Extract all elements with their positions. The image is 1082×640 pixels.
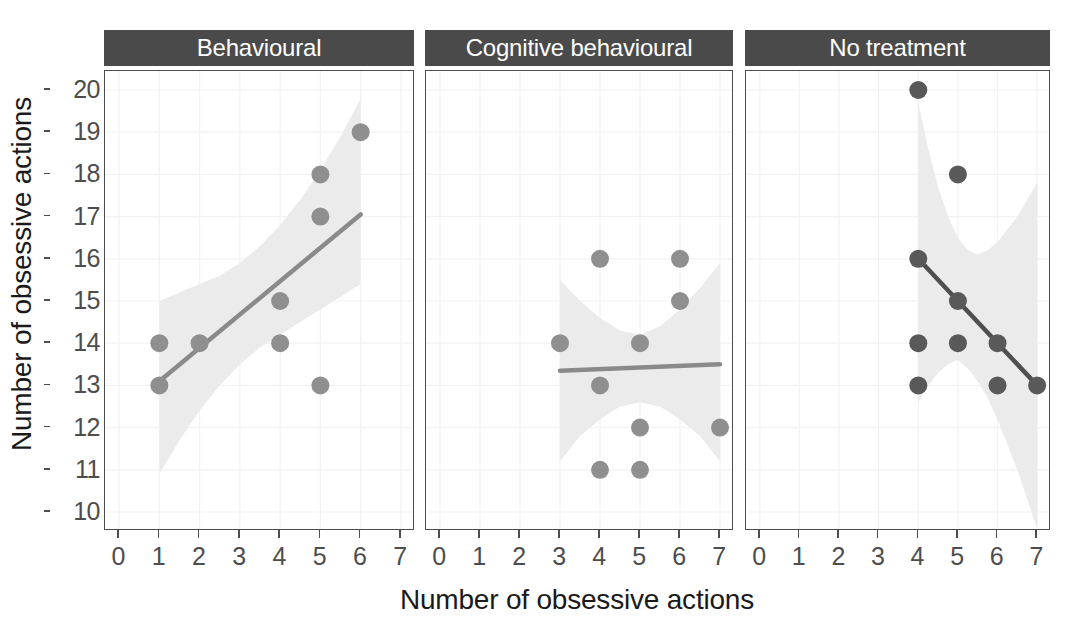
data-point	[949, 165, 967, 183]
plot-area	[745, 70, 1050, 530]
data-point	[1028, 376, 1046, 394]
x-axis-tick-mark	[798, 530, 800, 538]
data-point	[909, 81, 927, 99]
data-point	[150, 334, 168, 352]
data-point	[909, 334, 927, 352]
y-axis-tick-label: 17	[73, 201, 100, 230]
y-axis-label: Number of obsessive actions	[2, 14, 42, 534]
y-axis-tick-mark	[44, 88, 50, 90]
x-axis-tick-labels: 01234567	[425, 542, 733, 576]
plot-area	[425, 70, 733, 530]
y-axis-tick-mark	[44, 384, 50, 386]
x-axis-tick-mark	[837, 530, 839, 538]
data-point	[191, 334, 209, 352]
x-axis-tick-mark	[278, 530, 280, 538]
data-point	[591, 250, 609, 268]
y-axis-tick-mark	[44, 173, 50, 175]
y-axis-tick-mark	[44, 341, 50, 343]
y-axis-tick-label: 19	[73, 117, 100, 146]
plot-canvas	[746, 71, 1050, 530]
y-axis-tick-mark	[44, 299, 50, 301]
x-axis-tick-mark	[996, 530, 998, 538]
data-point	[150, 376, 168, 394]
faceted-scatter-figure: Number of obsessive actions 101112131415…	[0, 0, 1082, 640]
x-axis-tick-mark	[678, 530, 680, 538]
data-point	[909, 376, 927, 394]
plot-area	[104, 70, 414, 530]
x-axis-tick-mark	[238, 530, 240, 538]
x-axis-tick-mark	[718, 530, 720, 538]
x-axis-tick-mark	[638, 530, 640, 538]
y-axis-tick-label: 13	[73, 370, 100, 399]
facet-strip-label: No treatment	[745, 30, 1050, 66]
x-axis-tick-labels: 01234567	[104, 542, 414, 576]
x-axis-tick-label: 6	[990, 542, 1003, 571]
data-point	[631, 419, 649, 437]
data-point	[591, 461, 609, 479]
x-axis-tick-label: 1	[472, 542, 485, 571]
x-axis-tick-label: 4	[911, 542, 924, 571]
y-axis-tick-mark	[44, 257, 50, 259]
y-axis-tick-mark	[44, 130, 50, 132]
x-axis-tick-label: 3	[552, 542, 565, 571]
x-axis-tick-mark	[117, 530, 119, 538]
data-point	[311, 376, 329, 394]
x-axis-tick-label: 2	[192, 542, 205, 571]
data-point	[631, 461, 649, 479]
data-point	[949, 334, 967, 352]
x-axis-tick-label: 5	[632, 542, 645, 571]
y-axis-tick-label: 10	[73, 497, 100, 526]
data-point	[631, 334, 649, 352]
x-axis-tick-mark	[558, 530, 560, 538]
data-point	[989, 376, 1007, 394]
confidence-band	[159, 98, 360, 474]
facet-strip-label: Cognitive behavioural	[425, 30, 733, 66]
x-axis-tick-label: 4	[272, 542, 285, 571]
y-axis-tick-label: 20	[73, 74, 100, 103]
data-point	[909, 250, 927, 268]
x-axis-tick-mark	[198, 530, 200, 538]
x-axis-tick-mark	[877, 530, 879, 538]
x-axis-tick-label: 1	[792, 542, 805, 571]
y-axis-tick-mark	[44, 215, 50, 217]
data-point	[551, 334, 569, 352]
y-axis-tick-label: 12	[73, 412, 100, 441]
y-axis-tick-label: 14	[73, 328, 100, 357]
plot-canvas	[426, 71, 733, 530]
x-axis-tick-mark	[917, 530, 919, 538]
data-point	[671, 292, 689, 310]
data-point	[352, 123, 370, 141]
data-point	[989, 334, 1007, 352]
data-point	[949, 292, 967, 310]
x-axis-tick-label: 1	[152, 542, 165, 571]
y-axis-tick-label: 18	[73, 159, 100, 188]
x-axis-tick-label: 5	[950, 542, 963, 571]
x-axis-tick-mark	[1035, 530, 1037, 538]
x-axis-tick-label: 5	[313, 542, 326, 571]
data-point	[671, 250, 689, 268]
x-axis-tick-label: 7	[712, 542, 725, 571]
x-axis-tick-mark	[438, 530, 440, 538]
plot-canvas	[105, 71, 414, 530]
x-axis-tick-label: 6	[353, 542, 366, 571]
x-axis-tick-mark	[359, 530, 361, 538]
x-axis-tick-label: 2	[512, 542, 525, 571]
x-axis-tick-mark	[758, 530, 760, 538]
x-axis-tick-mark	[319, 530, 321, 538]
y-axis-tick-label: 16	[73, 243, 100, 272]
y-axis-tick-label: 15	[73, 286, 100, 315]
x-axis-tick-mark	[158, 530, 160, 538]
x-axis-tick-label: 7	[1029, 542, 1042, 571]
y-axis-tick-label: 11	[75, 454, 100, 483]
x-axis-tick-label: 3	[232, 542, 245, 571]
data-point	[271, 334, 289, 352]
x-axis-tick-label: 2	[831, 542, 844, 571]
data-point	[591, 376, 609, 394]
x-axis-tick-label: 6	[672, 542, 685, 571]
x-axis-tick-label: 0	[752, 542, 765, 571]
x-axis-tick-label: 0	[432, 542, 445, 571]
x-axis-tick-mark	[399, 530, 401, 538]
confidence-band	[918, 103, 1037, 529]
y-axis-tick-labels: 1011121314151617181920	[58, 70, 100, 530]
x-axis-tick-mark	[956, 530, 958, 538]
